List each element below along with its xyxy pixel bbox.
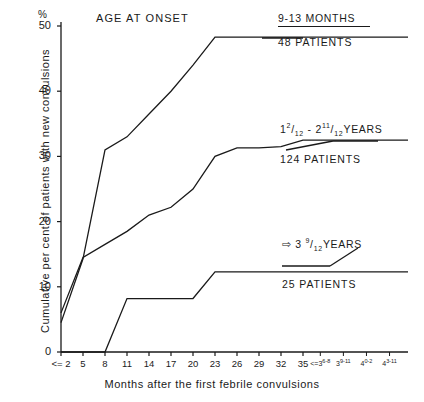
legend-title-1: 9-13 MONTHS <box>278 12 370 24</box>
legend-title-2: 12/12 - 211/12YEARS <box>280 122 383 137</box>
legend-rule-1 <box>278 26 370 27</box>
legend-entry-2: 12/12 - 211/12YEARS 124 PATIENTS <box>280 122 383 165</box>
legend-count-3: 25 PATIENTS <box>282 278 362 290</box>
figure-chart: AGE AT ONSET % Cumulative per cent of pa… <box>0 0 424 402</box>
tick-marks <box>57 26 390 356</box>
legend-count-1: 48 PATIENTS <box>278 36 370 48</box>
legend-entry-3: ⇨ 3 9/12YEARS 25 PATIENTS <box>282 237 362 290</box>
legend-count-2: 124 PATIENTS <box>280 153 383 165</box>
axis-lines <box>61 22 408 352</box>
series-lines <box>61 37 408 352</box>
legend-title-3: ⇨ 3 9/12YEARS <box>282 237 362 252</box>
legend-entry-1: 9-13 MONTHS 48 PATIENTS <box>278 12 370 48</box>
plot-area <box>0 0 424 402</box>
